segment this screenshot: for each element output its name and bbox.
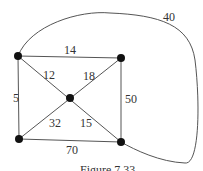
edge-d-e — [19, 139, 121, 142]
node-bottom-left — [15, 135, 23, 143]
figure-caption: Figure 7.33 — [80, 163, 135, 171]
weight-label-a-c: 12 — [43, 68, 55, 82]
edge-a-e-curved — [18, 13, 198, 163]
node-center — [66, 94, 74, 102]
node-top-right — [117, 54, 125, 62]
weighted-graph-diagram: 14 5 12 18 50 32 15 70 40 Figure 7.33 — [0, 0, 203, 171]
weight-label-d-c: 32 — [49, 116, 61, 130]
weight-label-b-c: 18 — [83, 69, 95, 83]
weight-label-b-e: 50 — [125, 92, 137, 106]
node-bottom-right — [117, 138, 125, 146]
weight-label-a-b: 14 — [64, 43, 76, 57]
weight-label-d-e: 70 — [66, 143, 78, 157]
node-top-left — [14, 52, 22, 60]
weight-label-c-e: 15 — [80, 116, 92, 130]
weight-label-a-d: 5 — [13, 91, 19, 105]
weight-label-a-e-curved: 40 — [163, 10, 175, 24]
